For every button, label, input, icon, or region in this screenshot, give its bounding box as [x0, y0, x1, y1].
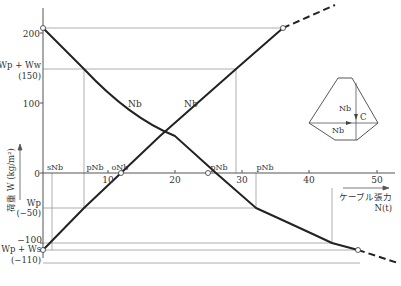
annot-wp-ws: Wp + Ws — [1, 244, 41, 254]
inset-arrow-down-icon — [354, 114, 358, 120]
curves — [43, 5, 398, 263]
y-axis-title: 荷重 W (kg/m²) — [6, 148, 16, 212]
x-axis-unit: N(t) — [375, 203, 393, 213]
x-tick-40: 40 — [303, 175, 315, 185]
nb-decreasing-dashed — [358, 250, 398, 263]
x-tick-30: 30 — [236, 175, 248, 185]
nb-increasing-curve — [43, 28, 283, 250]
y-tick-100: 100 — [23, 99, 40, 109]
inset-label-nb-vertical: Nb — [339, 104, 351, 113]
marker-end-increasing — [281, 26, 286, 31]
annot-pnb-3: pNb — [256, 163, 273, 172]
annot-wp: Wp — [27, 198, 42, 208]
x-axis-title: ケーブル張力 — [339, 192, 392, 202]
markers — [41, 26, 361, 253]
ylabel-arrow — [18, 144, 22, 200]
x-tick-50: 50 — [371, 175, 383, 185]
y-tick-0: 0 — [34, 169, 40, 179]
annot-wp-value: (−50) — [16, 208, 41, 218]
inset-diagram: Nb Nb C — [309, 78, 378, 140]
annot-onb: oNb — [112, 163, 129, 172]
marker-start-increasing — [41, 248, 46, 253]
curve-label-nb-increasing: Nb — [184, 99, 198, 109]
inset-label-nb-horizontal: Nb — [332, 126, 344, 135]
annot-wp-ws-value: (−110) — [11, 255, 41, 265]
inset-arrow-right-icon — [346, 121, 352, 125]
x-tick-20: 20 — [169, 175, 181, 185]
annot-pnb-2: pNb — [210, 163, 227, 172]
marker-end-decreasing — [356, 248, 361, 253]
curve-label-nb-decreasing: Nb — [128, 99, 142, 109]
marker-start-decreasing — [41, 26, 46, 31]
nb-decreasing-curve — [43, 28, 358, 250]
inset-label-c: C — [360, 112, 367, 122]
nb-increasing-dashed — [283, 5, 335, 28]
reference-lines — [43, 28, 360, 263]
annot-snb: sNb — [47, 163, 63, 172]
xlabel-arrow — [343, 186, 389, 190]
annot-pnb-1: pNb — [86, 163, 103, 172]
annot-wp-ww: Wp + Ww — [0, 60, 42, 70]
annot-wp-ww-value: (150) — [18, 71, 41, 81]
x-tick-10: 10 — [102, 175, 114, 185]
cable-tension-chart: 200 100 0 −100 Wp + Ww (150) Wp (−50) Wp… — [0, 0, 401, 286]
y-tick-200: 200 — [23, 29, 40, 39]
